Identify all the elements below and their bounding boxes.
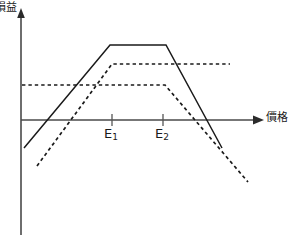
x-tick-label-e2: E2 bbox=[155, 126, 169, 141]
x-axis-label: 價格 bbox=[266, 112, 288, 124]
payoff-chart-canvas bbox=[0, 0, 300, 242]
series-combined-position bbox=[24, 45, 222, 148]
series-option-position-upper bbox=[37, 64, 230, 166]
x-tick-label-e2-subscript: 2 bbox=[163, 132, 169, 142]
y-axis-arrow-icon bbox=[17, 8, 25, 18]
x-tick-label-e1-text: E bbox=[104, 126, 112, 141]
y-axis-label: 損益 bbox=[0, 2, 9, 14]
x-tick-label-e1-subscript: 1 bbox=[112, 132, 118, 142]
x-tick-label-e2-text: E bbox=[155, 126, 163, 141]
x-axis-arrow-icon bbox=[253, 116, 264, 125]
payoff-diagram-figure: 損益 價格 E1 E2 bbox=[0, 0, 300, 242]
x-tick-label-e1: E1 bbox=[104, 126, 118, 141]
